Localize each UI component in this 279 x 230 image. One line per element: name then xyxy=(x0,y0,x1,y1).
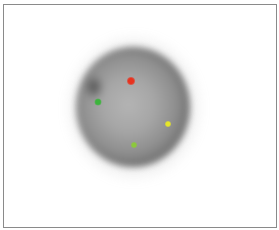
red-signal-dot xyxy=(127,77,135,85)
yellowgreen-signal-dot xyxy=(131,142,137,148)
yellow-signal-dot xyxy=(165,121,171,127)
dark-chromatin-region xyxy=(88,79,100,95)
green-signal-dot xyxy=(95,99,102,106)
cell-nucleus xyxy=(76,47,190,167)
image-frame xyxy=(3,4,277,228)
